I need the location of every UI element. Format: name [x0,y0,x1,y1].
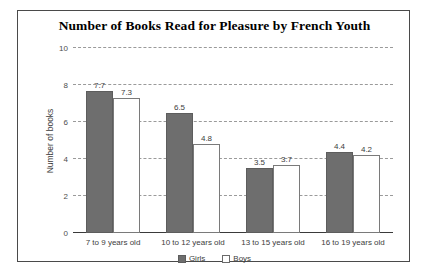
chart-screenshot: Number of Books Read for Pleasure by Fre… [0,0,429,272]
y-axis-tick-label: 8 [64,81,68,90]
bar-group: 4.44.216 to 19 years old [313,48,393,233]
bar-column: 4.2 [353,48,380,233]
y-axis-tick-label: 10 [59,44,68,53]
y-axis-title: Number of books [44,48,56,233]
y-axis-tick-label: 6 [64,118,68,127]
bar-value-label: 4.8 [201,134,212,143]
legend-label: Boys [233,254,251,263]
legend-swatch-boys [222,255,230,263]
bar-boys[interactable] [273,165,300,233]
bar-groups: 7.77.37 to 9 years old6.54.810 to 12 yea… [73,48,393,233]
bar-value-label: 7.3 [121,88,132,97]
bar-group: 3.53.713 to 15 years old [233,48,313,233]
bar-group: 7.77.37 to 9 years old [73,48,153,233]
y-axis-tick-label: 4 [64,155,68,164]
bar-value-label: 6.5 [174,103,185,112]
bar-boys[interactable] [193,144,220,233]
y-axis-tick-label: 2 [64,192,68,201]
bar-column: 4.8 [193,48,220,233]
bar-boys[interactable] [113,98,140,233]
bar-pair: 6.54.8 [153,48,233,233]
bar-pair: 4.44.2 [313,48,393,233]
bar-girls[interactable] [86,91,113,233]
bar-pair: 7.77.3 [73,48,153,233]
chart-frame: Number of Books Read for Pleasure by Fre… [17,10,410,262]
x-axis-tick-label: 7 to 9 years old [86,238,141,247]
bar-girls[interactable] [166,113,193,233]
legend-item-girls[interactable]: Girls [178,254,205,263]
chart-legend: GirlsBoys [18,254,411,263]
legend-label: Girls [189,254,205,263]
bar-value-label: 7.7 [94,81,105,90]
x-axis-tick-label: 13 to 15 years old [241,238,305,247]
plot-area: 0246810 7.77.37 to 9 years old6.54.810 t… [73,48,393,233]
bar-column: 7.3 [113,48,140,233]
bar-column: 6.5 [166,48,193,233]
bar-boys[interactable] [353,155,380,233]
bar-girls[interactable] [326,152,353,233]
bar-column: 3.7 [273,48,300,233]
legend-swatch-girls [178,255,186,263]
x-axis-tick-label: 16 to 19 years old [321,238,385,247]
bar-column: 3.5 [246,48,273,233]
bar-column: 7.7 [86,48,113,233]
chart-title: Number of Books Read for Pleasure by Fre… [18,18,411,34]
bar-girls[interactable] [246,168,273,233]
y-axis-title-label: Number of books [45,108,55,173]
bar-pair: 3.53.7 [233,48,313,233]
bar-group: 6.54.810 to 12 years old [153,48,233,233]
legend-item-boys[interactable]: Boys [222,254,251,263]
y-axis-tick-label: 0 [64,229,68,238]
bar-value-label: 3.7 [281,155,292,164]
bar-value-label: 3.5 [254,158,265,167]
bar-value-label: 4.2 [361,145,372,154]
x-axis-tick-label: 10 to 12 years old [161,238,225,247]
bar-value-label: 4.4 [334,142,345,151]
bar-column: 4.4 [326,48,353,233]
